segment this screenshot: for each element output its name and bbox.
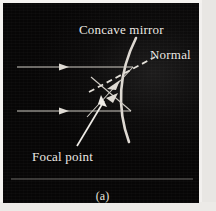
- label-concave-mirror: Concave mirror: [79, 22, 164, 38]
- figure-plate: Concave mirror Normal Focal point (a): [3, 3, 199, 203]
- incident-ray-upper-arrowhead: [59, 63, 69, 70]
- incident-ray-lower-arrowhead: [59, 107, 69, 114]
- page-margin-bottom: [0, 202, 216, 211]
- figure-caption: (a): [3, 189, 199, 203]
- label-normal: Normal: [150, 47, 191, 63]
- focal-point-pointer-line: [77, 101, 104, 146]
- figure-root: Concave mirror Normal Focal point (a): [0, 0, 216, 211]
- page-margin-right: [202, 0, 216, 211]
- reflected-ray-upper: [87, 67, 133, 117]
- label-focal-point: Focal point: [32, 149, 93, 165]
- concave-mirror-arc: [121, 38, 136, 142]
